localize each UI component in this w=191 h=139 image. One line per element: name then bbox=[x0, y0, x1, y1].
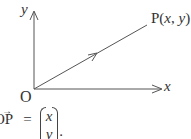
x-axis bbox=[34, 85, 162, 93]
point-label-separator: , bbox=[171, 10, 179, 26]
point-p-label: P(x, y) bbox=[151, 11, 190, 26]
equals-sign: = bbox=[23, 111, 31, 128]
equation-terminator: . bbox=[59, 123, 63, 139]
x-axis-label: x bbox=[164, 79, 171, 94]
point-label-suffix: ) bbox=[185, 10, 190, 26]
vector-diagram: y x O P(x, y) → OP = x y . bbox=[0, 0, 191, 139]
origin-label: O bbox=[20, 89, 32, 105]
vector-op-symbol: → OP bbox=[4, 107, 13, 128]
column-vector-y: y bbox=[46, 125, 53, 139]
position-vector-equation: → OP = x y . bbox=[4, 107, 63, 139]
vector-arrow-icon: → bbox=[2, 105, 12, 116]
position-vector-op bbox=[34, 25, 147, 89]
y-axis-label: y bbox=[21, 2, 28, 17]
column-vector: x y bbox=[40, 107, 59, 139]
y-axis bbox=[30, 11, 38, 89]
column-vector-x: x bbox=[46, 107, 53, 125]
point-label-prefix: P( bbox=[151, 10, 164, 26]
point-coord-x: x bbox=[164, 10, 171, 26]
